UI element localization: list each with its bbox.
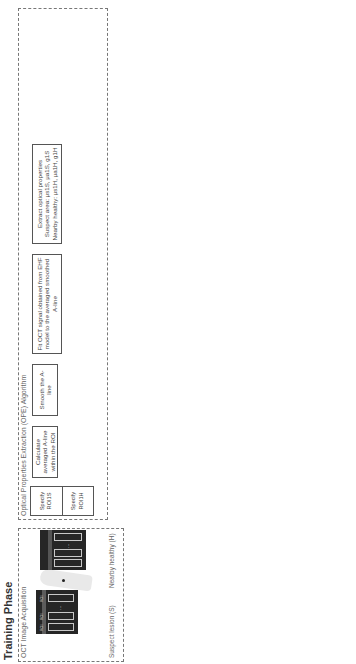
figure-landscape <box>0 0 356 664</box>
